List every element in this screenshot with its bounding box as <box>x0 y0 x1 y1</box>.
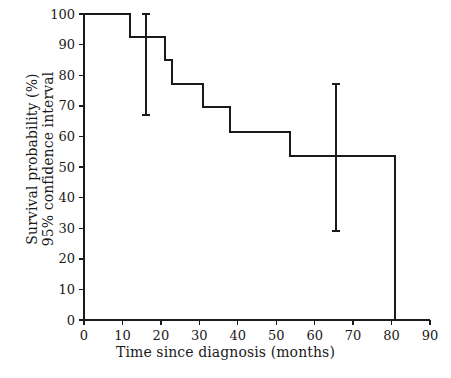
x-axis-label: Time since diagnosis (months) <box>0 344 451 360</box>
y-axis-label-line-2: 95% confidence interval <box>41 72 57 246</box>
x-tick-label: 0 <box>80 328 88 343</box>
x-tick-label: 40 <box>230 328 247 343</box>
y-axis-label-line-1: Survival probability (%) <box>25 73 41 244</box>
error-bar <box>142 14 150 115</box>
x-tick-label: 70 <box>345 328 362 343</box>
x-tick-label: 30 <box>191 328 208 343</box>
x-tick-label: 10 <box>114 328 131 343</box>
x-axis-tick-labels: 0102030405060708090 <box>80 328 438 343</box>
axis-lines <box>84 14 430 320</box>
x-tick-label: 20 <box>153 328 170 343</box>
x-tick-label: 90 <box>422 328 439 343</box>
y-axis-label: Survival probability (%) 95% confidence … <box>19 14 63 304</box>
x-tick-label: 60 <box>306 328 323 343</box>
plot-area: 0102030405060708090100 01020304050607080… <box>0 0 451 378</box>
y-tick-label: 0 <box>67 313 75 328</box>
survival-step-curve <box>84 14 395 320</box>
x-tick-label: 50 <box>268 328 285 343</box>
x-tick-label: 80 <box>383 328 400 343</box>
confidence-interval-error-bars <box>142 14 340 231</box>
error-bar <box>332 84 340 231</box>
survival-curve-figure: 0102030405060708090100 01020304050607080… <box>0 0 451 378</box>
